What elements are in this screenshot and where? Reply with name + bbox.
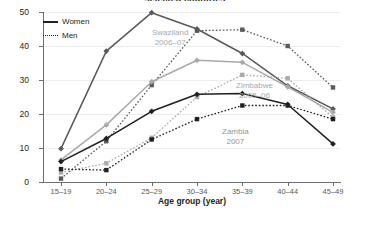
series-line (61, 30, 333, 179)
x-tick-label: 25–29 (130, 188, 174, 196)
data-point-marker (195, 29, 199, 33)
x-tick (197, 182, 198, 186)
legend-label-women: Women (62, 18, 89, 26)
data-point-marker (240, 73, 244, 77)
legend: Women Men (43, 16, 89, 44)
x-axis-title: Age group (year) (43, 196, 341, 206)
dotted-line-icon (43, 32, 58, 39)
x-tick-label: 40–44 (266, 188, 310, 196)
annotation-zambia: Zambia 2007 (222, 127, 249, 146)
annotation-swaziland-line1: Swaziland (152, 28, 188, 37)
x-axis-line (43, 182, 341, 183)
data-point-marker (285, 44, 289, 48)
data-point-marker (104, 168, 108, 172)
annotation-zimbabwe-line2: 2005–06 (239, 91, 270, 100)
data-point-marker (240, 103, 244, 107)
y-tick-label: 40 (5, 42, 29, 51)
chart-title: selected countries (0, 0, 370, 1)
annotation-zambia-line2: 2007 (226, 137, 244, 146)
data-point-marker (330, 109, 336, 115)
data-point-marker (59, 167, 63, 171)
x-tick (106, 182, 107, 186)
annotation-zimbabwe-line1: Zimbabwe (236, 81, 273, 90)
y-tick-label: 50 (5, 8, 29, 17)
y-tick (39, 182, 43, 183)
data-point-marker (59, 176, 63, 180)
y-tick-label: 20 (5, 110, 29, 119)
data-point-marker (58, 146, 64, 152)
annotation-swaziland-line2: 2006–07 (155, 38, 186, 47)
annotation-zimbabwe: Zimbabwe 2005–06 (236, 81, 273, 100)
data-point-marker (239, 59, 245, 65)
annotation-zambia-line1: Zambia (222, 127, 249, 136)
x-tick-label: 30–34 (175, 188, 219, 196)
data-point-marker (331, 117, 335, 121)
data-point-marker (285, 76, 289, 80)
y-tick-label: 30 (5, 76, 29, 85)
x-tick-label: 35–39 (220, 188, 264, 196)
x-tick (242, 182, 243, 186)
data-point-marker (149, 137, 153, 141)
annotation-swaziland: Swaziland 2006–07 (152, 28, 188, 47)
data-point-marker (104, 161, 108, 165)
legend-label-men: Men (62, 32, 78, 40)
x-tick-label: 15–19 (39, 188, 83, 196)
hiv-prevalence-chart: selected countries HIV prevalence (%) 01… (0, 0, 370, 226)
x-tick-label: 20–24 (84, 188, 128, 196)
legend-item-women[interactable]: Women (43, 16, 89, 27)
data-point-marker (194, 57, 200, 63)
data-point-marker (331, 85, 335, 89)
x-tick (288, 182, 289, 186)
data-point-marker (285, 103, 289, 107)
legend-item-men[interactable]: Men (43, 30, 89, 41)
data-point-marker (240, 27, 244, 31)
x-tick-label: 45–49 (311, 188, 355, 196)
data-point-marker (195, 117, 199, 121)
x-tick (333, 182, 334, 186)
x-tick (61, 182, 62, 186)
solid-line-icon (43, 18, 58, 25)
x-tick (152, 182, 153, 186)
series-line (61, 106, 333, 171)
y-tick-label: 0 (5, 178, 29, 187)
y-tick-label: 10 (5, 144, 29, 153)
